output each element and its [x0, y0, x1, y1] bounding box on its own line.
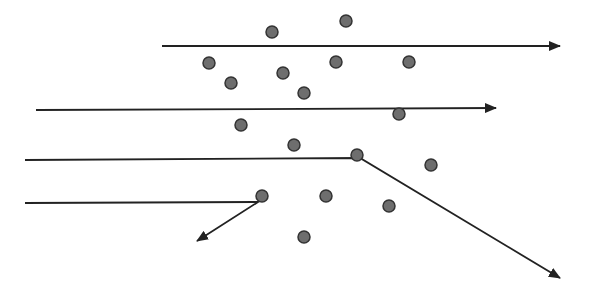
scattering-diagram [0, 0, 590, 287]
target-particles [203, 15, 437, 243]
particle-dot [288, 139, 300, 151]
trajectory-4-backscattered-arrow [25, 202, 258, 241]
trajectory-3-deflected-arrow [25, 158, 560, 278]
particle-dot [340, 15, 352, 27]
particle-dot [225, 77, 237, 89]
particle-dot [351, 149, 363, 161]
particle-dot [298, 87, 310, 99]
particle-dot [393, 108, 405, 120]
particle-dot [256, 190, 268, 202]
particle-dot [298, 231, 310, 243]
particle-dot [425, 159, 437, 171]
particle-dot [266, 26, 278, 38]
trajectory-2-straight-arrow [36, 108, 496, 110]
particle-dot [330, 56, 342, 68]
particle-dot [203, 57, 215, 69]
particle-dot [383, 200, 395, 212]
particle-dot [277, 67, 289, 79]
particle-dot [320, 190, 332, 202]
particle-dot [403, 56, 415, 68]
trajectory-group [25, 46, 560, 278]
particle-dot [235, 119, 247, 131]
